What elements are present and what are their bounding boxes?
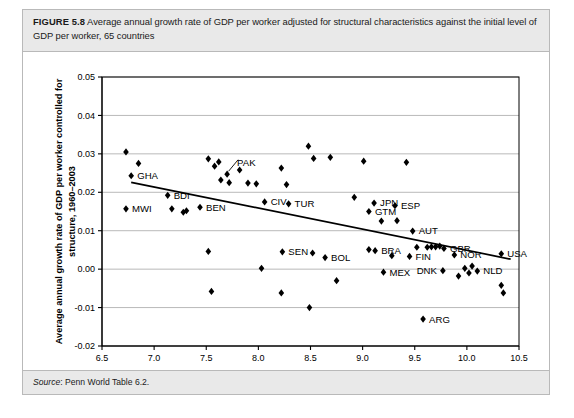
data-point bbox=[327, 154, 333, 161]
data-point bbox=[279, 164, 285, 171]
figure-caption-band: FIGURE 5.8 Average annual growth rate of… bbox=[23, 10, 549, 52]
data-point bbox=[410, 227, 416, 234]
chart-plot-area: 0.050.040.030.020.010.00-0.01-0.02 6.57.… bbox=[23, 52, 549, 372]
data-point bbox=[456, 272, 462, 279]
data-point bbox=[224, 171, 230, 178]
data-point bbox=[351, 194, 357, 201]
x-axis: 6.57.07.58.08.59.09.510.010.5 bbox=[96, 346, 528, 363]
data-point-label: MEX bbox=[389, 267, 410, 278]
figure-source-band: Source: Penn World Table 6.2. bbox=[23, 370, 549, 394]
source-text: : Penn World Table 6.2. bbox=[60, 377, 149, 387]
x-tick-label: 10.5 bbox=[510, 353, 528, 363]
data-point bbox=[466, 269, 472, 276]
data-point bbox=[218, 176, 224, 183]
data-point bbox=[165, 192, 171, 199]
y-axis-title: Average annual growth rate of GDP per wo… bbox=[53, 77, 78, 346]
data-point bbox=[123, 205, 129, 212]
data-point bbox=[307, 304, 313, 311]
x-tick-label: 9.0 bbox=[356, 353, 369, 363]
x-tick-label: 7.5 bbox=[200, 353, 213, 363]
data-point bbox=[366, 246, 372, 253]
figure-number: FIGURE 5.8 bbox=[33, 16, 85, 27]
data-point bbox=[226, 179, 232, 186]
data-point-label: PAK bbox=[237, 157, 256, 168]
data-point bbox=[128, 172, 134, 179]
data-point bbox=[216, 158, 222, 165]
data-point-label: DNK bbox=[417, 265, 438, 276]
data-point-label: SEN bbox=[288, 246, 308, 257]
data-point bbox=[206, 155, 212, 162]
data-point bbox=[322, 254, 328, 261]
data-point bbox=[259, 265, 265, 272]
data-point bbox=[381, 269, 387, 276]
figure-caption: FIGURE 5.8 Average annual growth rate of… bbox=[33, 15, 539, 42]
data-point bbox=[361, 158, 367, 165]
data-point-label: MWI bbox=[132, 203, 152, 214]
data-point bbox=[286, 200, 292, 207]
data-point bbox=[197, 204, 203, 211]
data-point-label: BDI bbox=[174, 190, 190, 201]
data-point-label: AUT bbox=[419, 225, 438, 236]
data-point bbox=[462, 265, 468, 272]
figure-container: FIGURE 5.8 Average annual growth rate of… bbox=[22, 9, 550, 395]
data-point-label: BRA bbox=[381, 245, 401, 256]
data-point bbox=[310, 249, 316, 256]
data-point bbox=[407, 253, 413, 260]
data-point bbox=[306, 143, 312, 150]
data-point-label: NOR bbox=[460, 249, 481, 260]
data-point bbox=[366, 208, 372, 215]
data-point bbox=[209, 288, 215, 295]
data-point bbox=[123, 148, 129, 155]
data-point-label: BEN bbox=[206, 202, 226, 213]
data-point bbox=[498, 282, 504, 289]
data-point bbox=[414, 244, 420, 251]
x-tick-label: 9.5 bbox=[408, 353, 421, 363]
data-point bbox=[136, 160, 142, 167]
data-point bbox=[169, 205, 175, 212]
data-point bbox=[334, 277, 340, 284]
data-point bbox=[311, 155, 317, 162]
data-point bbox=[420, 316, 426, 323]
data-point-label: NLD bbox=[483, 265, 502, 276]
gridlines-group bbox=[102, 77, 519, 308]
source-label: Source bbox=[33, 377, 60, 387]
y-axis-title-wrapper: Average annual growth rate of GDP per wo… bbox=[53, 77, 83, 346]
data-point bbox=[501, 289, 507, 296]
data-point bbox=[279, 289, 285, 296]
data-point bbox=[394, 217, 400, 224]
data-point bbox=[372, 247, 378, 254]
data-point-label: CIV bbox=[271, 196, 288, 207]
data-point bbox=[469, 262, 475, 269]
x-tick-label: 10.0 bbox=[458, 353, 476, 363]
data-point bbox=[262, 198, 268, 205]
data-point bbox=[474, 267, 480, 274]
data-point bbox=[206, 248, 212, 255]
data-point-label: JPN bbox=[380, 197, 398, 208]
x-tick-label: 8.0 bbox=[252, 353, 265, 363]
data-points-group bbox=[123, 143, 506, 323]
data-point-label: FIN bbox=[416, 251, 432, 262]
data-point-label: ARG bbox=[429, 314, 450, 325]
data-point-label: TUR bbox=[295, 198, 315, 209]
x-tick-label: 7.0 bbox=[148, 353, 161, 363]
data-point bbox=[212, 163, 218, 170]
data-point-label: ESP bbox=[401, 200, 420, 211]
data-point bbox=[379, 218, 385, 225]
data-point bbox=[245, 179, 251, 186]
data-point-label: USA bbox=[507, 248, 527, 259]
data-point bbox=[253, 180, 259, 187]
figure-caption-text: Average annual growth rate of GDP per wo… bbox=[33, 16, 537, 41]
point-labels-group: GHAMWIBDIBENPAKCIVTURSENBOLGTMJPNBRAESPM… bbox=[132, 157, 528, 324]
data-point bbox=[404, 159, 410, 166]
figure-source: Source: Penn World Table 6.2. bbox=[33, 377, 549, 387]
data-point-label: GHA bbox=[137, 170, 158, 181]
data-point bbox=[280, 248, 286, 255]
scatter-chart-svg: 0.050.040.030.020.010.00-0.01-0.02 6.57.… bbox=[23, 52, 551, 372]
data-point bbox=[440, 267, 446, 274]
data-point-label: BOL bbox=[331, 252, 351, 263]
x-tick-label: 6.5 bbox=[96, 353, 109, 363]
data-point bbox=[284, 181, 290, 188]
x-tick-label: 8.5 bbox=[304, 353, 317, 363]
